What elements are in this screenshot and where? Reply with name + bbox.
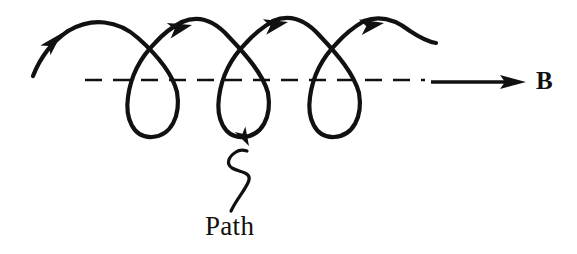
diagram-canvas: [0, 0, 577, 254]
magnetic-field-label: B: [536, 68, 553, 93]
physics-diagram-figure: Path B: [0, 0, 577, 254]
path-segment-crest-3: [273, 18, 359, 93]
path-segment-crest-2: [182, 19, 268, 93]
path-segment-crest-1: [68, 22, 177, 92]
path-callout-arrow-squiggle: [229, 150, 250, 211]
charged-particle-helical-path: [33, 18, 436, 137]
magnetic-field-arrow: [431, 75, 526, 89]
path-label: Path: [205, 213, 254, 240]
